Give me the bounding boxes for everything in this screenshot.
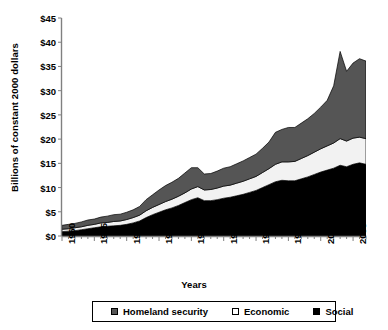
legend-swatch-social: [313, 308, 320, 315]
legend-swatch-homeland-security: [111, 308, 118, 315]
stacked-area-chart: Billions of constant 2000 dollars $45$40…: [0, 0, 388, 330]
legend-item-homeland-security: Homeland security: [111, 306, 208, 317]
legend-item-economic: Economic: [232, 306, 289, 317]
chart-legend: Homeland security Economic Social: [92, 301, 336, 322]
x-axis-title: Years: [0, 279, 388, 290]
legend-label-social: Social: [325, 306, 353, 317]
x-axis-tick-label: 1995: [292, 223, 303, 244]
x-axis-tick-label: 1975: [163, 223, 174, 244]
x-axis-tick-label: 2005: [357, 223, 368, 244]
x-axis-tick-label: 1980: [195, 223, 206, 244]
legend-item-social: Social: [313, 306, 353, 317]
x-axis-tick-label: 1985: [228, 223, 239, 244]
x-axis-tick-label: 1990: [260, 223, 271, 244]
legend-label-economic: Economic: [244, 306, 289, 317]
x-axis-tick-label: 1970: [131, 223, 142, 244]
legend-swatch-economic: [232, 308, 239, 315]
x-axis-tick-label: 1960: [66, 223, 77, 244]
legend-label-homeland-security: Homeland security: [123, 306, 208, 317]
x-axis-tick-label: 2000: [325, 223, 336, 244]
x-axis-tick-label: 1965: [98, 223, 109, 244]
